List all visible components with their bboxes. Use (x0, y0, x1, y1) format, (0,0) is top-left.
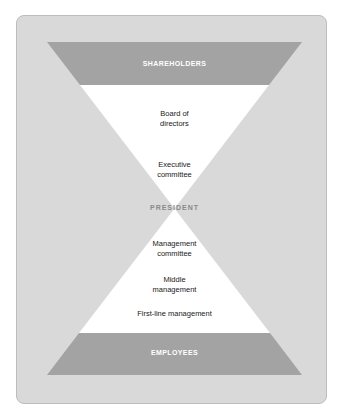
upper-white-triangle (80, 85, 269, 208)
executive-committee-label: Executive committee (74, 160, 275, 180)
management-committee-label: Management committee (74, 239, 275, 259)
board-of-directors-label: Board of directors (74, 109, 275, 129)
middle-management-label: Middle management (74, 275, 275, 295)
president-label: PRESIDENT (74, 203, 275, 213)
first-line-management-label: First-line management (74, 309, 275, 319)
label-line: First-line management (74, 309, 275, 319)
label-line: Middle (74, 275, 275, 285)
label-line: Board of (74, 109, 275, 119)
label-line: directors (74, 119, 275, 129)
label-line: management (74, 285, 275, 295)
label-line: committee (74, 249, 275, 259)
label-line: Executive (74, 160, 275, 170)
label-line: committee (74, 170, 275, 180)
employees-label: EMPLOYEES (74, 348, 275, 358)
shareholders-label: SHAREHOLDERS (74, 59, 275, 69)
label-line: Management (74, 239, 275, 249)
